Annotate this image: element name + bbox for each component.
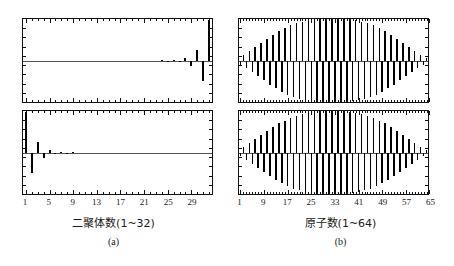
- y-tick: [425, 47, 428, 48]
- bar: [314, 112, 316, 153]
- bar: [355, 20, 357, 60]
- minor-tick: [255, 19, 256, 21]
- minor-tick: [379, 100, 380, 102]
- minor-tick: [103, 111, 104, 113]
- panel-group-a: 1591317212529 二聚体数(1~32) (a): [0, 0, 227, 266]
- minor-tick: [418, 192, 419, 194]
- minor-tick: [308, 19, 309, 21]
- minor-tick: [156, 111, 157, 113]
- minor-tick: [415, 19, 416, 21]
- minor-tick: [376, 192, 377, 194]
- major-tick: [406, 98, 407, 102]
- minor-tick: [370, 19, 371, 21]
- figure-container: 1591317212529 二聚体数(1~32) (a) 191725: [0, 0, 454, 266]
- minor-tick: [394, 100, 395, 102]
- bar: [393, 153, 395, 177]
- bar: [284, 28, 286, 60]
- minor-tick: [403, 111, 404, 113]
- minor-tick: [317, 192, 318, 194]
- minor-tick: [320, 19, 321, 21]
- bar: [296, 23, 298, 60]
- major-tick: [406, 111, 407, 115]
- bar: [340, 61, 342, 103]
- minor-tick: [308, 100, 309, 102]
- major-tick: [191, 98, 192, 102]
- minor-tick: [418, 100, 419, 102]
- bar: [352, 153, 354, 193]
- minor-tick: [132, 100, 133, 102]
- y-tick: [425, 185, 428, 186]
- major-tick: [97, 190, 98, 194]
- minor-tick: [314, 111, 315, 113]
- x-tick-label: 9: [261, 197, 266, 207]
- minor-tick: [255, 192, 256, 194]
- minor-tick: [302, 100, 303, 102]
- major-tick: [429, 98, 430, 102]
- minor-tick: [126, 19, 127, 21]
- minor-tick: [326, 100, 327, 102]
- minor-tick: [362, 192, 363, 194]
- plot-area-b-top: [239, 19, 428, 102]
- y-tick: [425, 28, 428, 29]
- y-tick: [209, 56, 212, 57]
- minor-tick: [162, 192, 163, 194]
- major-tick: [429, 19, 430, 23]
- minor-tick: [376, 111, 377, 113]
- minor-tick: [270, 192, 271, 194]
- bar: [290, 118, 292, 153]
- bar: [349, 19, 351, 60]
- minor-tick: [252, 100, 253, 102]
- minor-tick: [421, 192, 422, 194]
- bar: [325, 19, 327, 61]
- minor-tick: [279, 111, 280, 113]
- major-tick: [168, 19, 169, 23]
- minor-tick: [38, 192, 39, 194]
- minor-tick: [356, 100, 357, 102]
- minor-tick: [415, 192, 416, 194]
- minor-tick: [109, 111, 110, 113]
- tick-row-bottom: [239, 190, 428, 194]
- minor-tick: [373, 192, 374, 194]
- minor-tick: [103, 19, 104, 21]
- major-tick: [335, 98, 336, 102]
- y-tick: [425, 65, 428, 66]
- minor-tick: [370, 111, 371, 113]
- bar: [60, 152, 62, 153]
- minor-tick: [261, 19, 262, 21]
- minor-tick: [379, 192, 380, 194]
- minor-tick: [61, 192, 62, 194]
- minor-tick: [270, 100, 271, 102]
- minor-tick: [300, 192, 301, 194]
- bar: [319, 111, 321, 152]
- bar: [328, 153, 330, 195]
- minor-tick: [338, 100, 339, 102]
- bar: [402, 135, 404, 152]
- bar: [405, 61, 407, 77]
- bar: [420, 55, 422, 61]
- bar: [260, 135, 262, 152]
- minor-tick: [185, 100, 186, 102]
- minor-tick: [329, 111, 330, 113]
- x-axis-title-b: 原子数(1~64): [227, 214, 454, 230]
- minor-tick: [362, 19, 363, 21]
- major-tick: [168, 98, 169, 102]
- bar: [355, 113, 357, 153]
- minor-tick: [297, 100, 298, 102]
- minor-tick: [291, 111, 292, 113]
- minor-tick: [85, 100, 86, 102]
- major-tick: [288, 190, 289, 194]
- minor-tick: [249, 111, 250, 113]
- minor-tick: [300, 100, 301, 102]
- x-tick-label: 21: [140, 197, 149, 207]
- minor-tick: [421, 19, 422, 21]
- major-tick: [73, 98, 74, 102]
- bar: [370, 61, 372, 98]
- minor-tick: [138, 100, 139, 102]
- bar: [316, 61, 318, 102]
- bar: [346, 61, 348, 102]
- bar: [364, 61, 366, 99]
- minor-tick: [302, 192, 303, 194]
- y-tick: [239, 93, 242, 94]
- minor-tick: [282, 100, 283, 102]
- bar: [37, 142, 39, 153]
